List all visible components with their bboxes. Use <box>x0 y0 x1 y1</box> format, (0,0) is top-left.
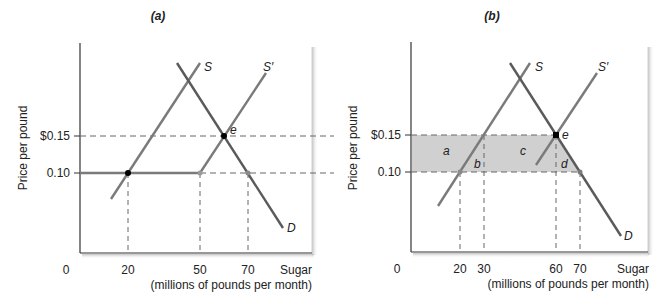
frame-shadow-bottom <box>82 254 314 259</box>
frame-shadow-bottom <box>413 253 649 258</box>
y-tick-010: 0.10 <box>378 165 402 179</box>
x-tick-20: 20 <box>121 263 135 277</box>
y-tick-010: 0.10 <box>47 166 71 180</box>
area-label-c: c <box>520 144 526 158</box>
label-e: e <box>562 128 569 142</box>
x-tick-60: 60 <box>549 262 563 276</box>
shaded-area-abcd <box>412 135 580 172</box>
y-tick-015: $0.15 <box>40 129 70 143</box>
label-s: S <box>535 60 543 74</box>
panel-b-title: (b) <box>484 9 499 23</box>
supply-curve-s <box>111 63 200 199</box>
point-20 <box>125 170 131 176</box>
area-label-a: a <box>443 144 450 158</box>
area-label-d: d <box>561 157 568 171</box>
point-50 <box>198 171 203 176</box>
label-s: S <box>204 60 212 74</box>
label-s-prime: S′ <box>598 60 609 74</box>
y-axis-label: Price per pound <box>346 106 360 191</box>
frame-shadow-right <box>312 47 318 255</box>
equilibrium-point-e <box>221 133 227 139</box>
area-label-b: b <box>474 157 481 171</box>
x-axis-label-1: Sugar <box>280 263 312 277</box>
label-d: D <box>287 221 296 235</box>
demand-curve <box>177 63 283 228</box>
label-e: e <box>230 123 237 137</box>
y-axis-label: Price per pound <box>16 106 30 191</box>
x-tick-0: 0 <box>394 262 401 276</box>
panel-a-title: (a) <box>151 9 166 23</box>
label-s-prime: S′ <box>263 60 274 74</box>
y-tick-015: $0.15 <box>371 128 401 142</box>
x-tick-70: 70 <box>573 262 587 276</box>
x-tick-0: 0 <box>63 263 70 277</box>
label-d: D <box>624 229 633 243</box>
x-axis-label-2: (millions of pounds per month) <box>151 278 312 292</box>
x-tick-70: 70 <box>241 263 255 277</box>
x-tick-50: 50 <box>193 263 207 277</box>
x-axis-label-2: (millions of pounds per month) <box>488 277 649 291</box>
point-70 <box>578 170 583 175</box>
panel-a: (a) S S′ D e $0.15 0.10 0 <box>16 9 334 292</box>
frame-shadow-right <box>648 47 654 255</box>
chart-canvas: (a) S S′ D e $0.15 0.10 0 <box>0 0 668 303</box>
point-20 <box>458 170 463 175</box>
x-axis-label-1: Sugar <box>617 262 649 276</box>
point-70 <box>246 171 251 176</box>
x-tick-30: 30 <box>477 262 491 276</box>
x-tick-20: 20 <box>453 262 467 276</box>
equilibrium-point-e <box>553 132 559 138</box>
panel-b: (b) S S′ D e a b c <box>346 9 654 291</box>
